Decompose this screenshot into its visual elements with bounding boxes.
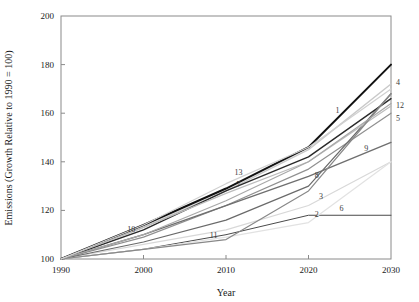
series-label-10: 10 — [127, 225, 135, 234]
y-tick-label: 160 — [41, 108, 55, 118]
x-tick-label: 2030 — [382, 265, 401, 275]
y-tick-label-group: 100120140160180200 — [41, 11, 55, 264]
series-label-1: 1 — [335, 106, 339, 115]
series-line-12 — [61, 103, 391, 259]
y-tick-label: 120 — [41, 205, 55, 215]
series-line-10 — [61, 106, 391, 259]
chart-figure: 100120140160180200 19902000201020202030 … — [0, 0, 419, 302]
y-tick-label: 140 — [41, 157, 55, 167]
series-label-4: 4 — [396, 78, 400, 87]
x-tick-label-group: 19902000201020202030 — [52, 265, 401, 275]
y-tick-label: 100 — [41, 254, 55, 264]
plot-frame — [61, 16, 391, 259]
x-axis-title: Year — [217, 287, 236, 298]
series-label-2: 2 — [315, 210, 319, 219]
y-tick-label: 200 — [41, 11, 55, 21]
series-label-13: 13 — [234, 168, 242, 177]
series-label-5: 5 — [396, 114, 400, 123]
series-label-6: 6 — [340, 204, 344, 213]
line-chart-canvas: 100120140160180200 19902000201020202030 … — [0, 0, 419, 302]
x-tick-label: 2020 — [300, 265, 319, 275]
x-tick-label: 2010 — [217, 265, 236, 275]
series-label-7: 7 — [236, 180, 240, 189]
series-label-3: 3 — [319, 192, 323, 201]
series-line-group — [61, 65, 391, 259]
x-tick-label: 1990 — [52, 265, 71, 275]
series-line-1 — [61, 84, 391, 259]
axis-tick-marks — [61, 65, 309, 259]
x-tick-label: 2000 — [135, 265, 154, 275]
series-label-8: 8 — [315, 171, 319, 180]
series-label-9: 9 — [364, 144, 368, 153]
y-tick-label: 180 — [41, 60, 55, 70]
series-label-12: 12 — [396, 101, 404, 110]
y-axis-title: Emissions (Growth Relative to 1990 = 100… — [3, 50, 15, 225]
series-label-11: 11 — [210, 231, 218, 240]
